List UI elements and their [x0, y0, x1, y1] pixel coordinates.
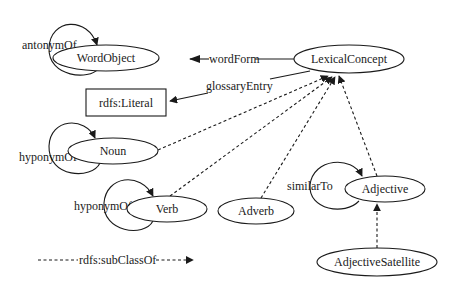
node-label-adjective: Adjective: [362, 182, 409, 196]
node-lexical-concept[interactable]: LexicalConcept: [294, 45, 404, 73]
node-label-verb: Verb: [156, 202, 179, 216]
node-adjective[interactable]: Adjective: [345, 176, 425, 202]
node-rdfs-literal[interactable]: rdfs:Literal: [86, 89, 166, 116]
node-noun[interactable]: Noun: [68, 138, 158, 164]
node-label-noun: Noun: [100, 144, 127, 158]
edge-label-similar-to: similarTo: [287, 179, 333, 193]
edge-label-word-form: wordForm: [209, 52, 260, 66]
edge-label-verb-hyponym-of: hyponymOf: [74, 199, 132, 213]
node-label-adverb: Adverb: [238, 204, 274, 218]
edge-word-form: wordForm: [189, 52, 294, 66]
node-label-rdfs-literal: rdfs:Literal: [99, 96, 154, 110]
edge-label-glossary-entry: glossaryEntry: [206, 79, 273, 93]
node-adjective-satellite[interactable]: AdjectiveSatellite: [317, 248, 437, 276]
node-word-object[interactable]: WordObject: [53, 45, 159, 71]
node-label-word-object: WordObject: [77, 51, 136, 65]
legend-label: rdfs:subClassOf: [79, 253, 156, 267]
ontology-diagram: antonymOf wordForm glossaryEntry hyponym…: [0, 0, 462, 287]
node-adverb[interactable]: Adverb: [218, 198, 294, 224]
legend: rdfs:subClassOf: [38, 253, 193, 267]
node-label-adjective-satellite: AdjectiveSatellite: [334, 255, 420, 269]
edge-adjective-subclass: [339, 76, 377, 176]
node-verb[interactable]: Verb: [127, 196, 207, 222]
node-label-lexical-concept: LexicalConcept: [311, 52, 388, 66]
edge-glossary-entry: glossaryEntry: [170, 71, 310, 101]
